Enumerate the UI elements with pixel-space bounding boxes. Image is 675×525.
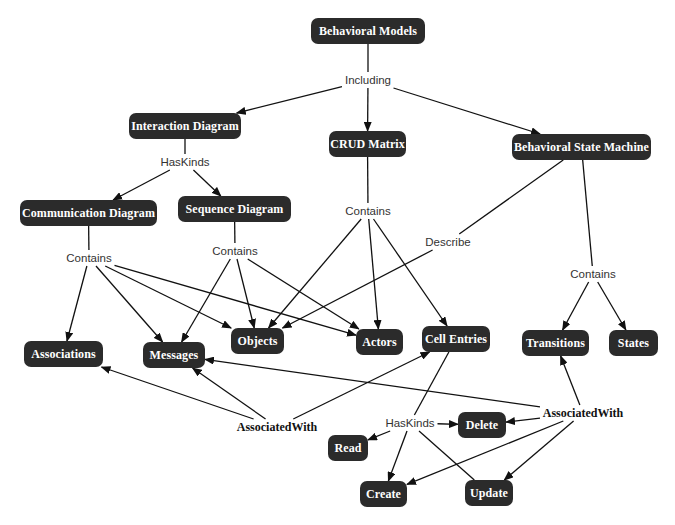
- edge-associatedwith_right-to-messages: [205, 359, 540, 407]
- edge-including-to-interaction_diagram: [237, 87, 342, 113]
- edge-haskinds_interaction-to-communication_diagram: [113, 170, 170, 200]
- edge-associatedwith_right-to-transitions: [561, 356, 580, 405]
- linking-phrase-haskinds-cell-entries: HasKinds: [383, 416, 436, 430]
- node-label: Actors: [362, 335, 397, 350]
- edge-contains_crud-to-actors: [369, 219, 379, 329]
- node-delete[interactable]: Delete: [458, 412, 506, 438]
- edge-cell_entries-to-haskinds_cell: [414, 352, 449, 415]
- linking-phrase-associatedwith-right: AssociatedWith: [541, 406, 625, 420]
- linking-phrase-contains-communication: Contains: [64, 251, 113, 265]
- node-label: Update: [470, 486, 508, 501]
- node-label: Cell Entries: [425, 332, 487, 347]
- edge-contains_seq-to-actors: [248, 259, 359, 329]
- linking-phrase-contains-state-machine: Contains: [568, 267, 617, 281]
- edge-behavioral_state_machine-to-contains_bsm: [583, 160, 593, 266]
- edge-associatedwith_right-to-update: [504, 421, 573, 480]
- edge-haskinds_cell-to-delete: [438, 424, 459, 425]
- node-actors[interactable]: Actors: [356, 329, 403, 355]
- node-label: Create: [366, 487, 401, 502]
- edge-including-to-behavioral_state_machine: [393, 88, 540, 134]
- node-communication-diagram[interactable]: Communication Diagram: [20, 200, 157, 226]
- node-label: Interaction Diagram: [131, 119, 239, 134]
- node-label: CRUD Matrix: [330, 137, 405, 152]
- edge-contains_comm-to-actors: [115, 265, 357, 335]
- node-label: Transitions: [526, 336, 585, 351]
- node-label: Associations: [31, 347, 96, 362]
- node-read[interactable]: Read: [328, 435, 368, 461]
- edge-haskinds_cell-to-create: [388, 431, 407, 481]
- node-sequence-diagram[interactable]: Sequence Diagram: [178, 196, 291, 222]
- node-label: Behavioral State Machine: [514, 140, 649, 155]
- edge-contains_comm-to-objects: [105, 266, 231, 328]
- edge-contains_bsm-to-transitions: [563, 282, 589, 330]
- linking-phrase-contains-sequence: Contains: [210, 244, 259, 258]
- node-messages[interactable]: Messages: [143, 342, 205, 368]
- linking-phrase-associatedwith-left: AssociatedWith: [235, 420, 319, 434]
- node-label: Read: [334, 441, 361, 456]
- node-label: Objects: [237, 334, 277, 349]
- node-cell-entries[interactable]: Cell Entries: [422, 326, 490, 352]
- node-label: Communication Diagram: [22, 206, 155, 221]
- node-transitions[interactable]: Transitions: [522, 330, 589, 356]
- linking-phrase-contains-crud: Contains: [343, 204, 392, 218]
- edge-contains_bsm-to-states: [598, 282, 626, 330]
- edge-associatedwith_right-to-delete: [506, 418, 540, 422]
- node-label: States: [618, 336, 649, 351]
- edge-associatedwith_left-to-cell_entries: [293, 352, 429, 419]
- edge-associatedwith_left-to-associations: [102, 367, 254, 419]
- edge-contains_seq-to-objects: [237, 259, 254, 328]
- node-behavioral-state-machine[interactable]: Behavioral State Machine: [512, 134, 651, 160]
- node-label: Messages: [150, 348, 199, 363]
- node-objects[interactable]: Objects: [231, 328, 284, 354]
- node-create[interactable]: Create: [360, 481, 407, 507]
- node-label: Delete: [466, 418, 499, 433]
- linking-phrase-describe: Describe: [423, 235, 472, 249]
- edge-haskinds_cell-to-read: [368, 431, 390, 440]
- edge-contains_comm-to-associations: [67, 266, 87, 341]
- edge-behavioral_state_machine-to-describe: [459, 160, 563, 234]
- node-states[interactable]: States: [609, 330, 658, 356]
- node-update[interactable]: Update: [465, 480, 513, 506]
- node-behavioral-models[interactable]: Behavioral Models: [311, 18, 425, 44]
- linking-phrase-including: Including: [343, 73, 393, 87]
- edge-haskinds_interaction-to-sequence_diagram: [193, 170, 220, 196]
- node-interaction-diagram[interactable]: Interaction Diagram: [129, 113, 241, 139]
- node-associations[interactable]: Associations: [24, 341, 103, 367]
- node-label: Behavioral Models: [319, 24, 417, 39]
- node-crud-matrix[interactable]: CRUD Matrix: [329, 131, 406, 157]
- edge-associatedwith_left-to-messages: [193, 368, 266, 419]
- linking-phrase-haskinds-interaction: HasKinds: [158, 155, 211, 169]
- edge-contains_seq-to-messages: [182, 259, 231, 342]
- node-label: Sequence Diagram: [186, 202, 284, 217]
- edge-describe-to-objects: [283, 250, 433, 328]
- edge-haskinds_cell-to-update: [419, 431, 474, 480]
